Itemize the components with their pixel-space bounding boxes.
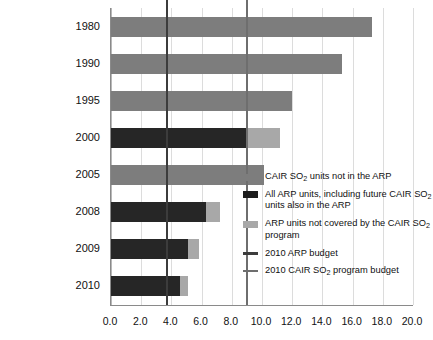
legend-label: All ARP units, including future CAIR SO2… (265, 189, 433, 212)
gridline-6.0 (202, 8, 203, 305)
legend-label: CAIR SO2 units not in the ARP (265, 171, 433, 182)
bar-1980 (111, 17, 372, 37)
y-axis-label-2009: 2009 (0, 243, 108, 254)
bar-2009 (111, 239, 199, 259)
legend-line-swatch (243, 252, 258, 255)
bar-segment (111, 54, 342, 74)
legend-item: 2010 CAIR SO2 program budget (243, 265, 433, 276)
chart-legend: CAIR SO2 units not in the ARPAll ARP uni… (243, 171, 433, 283)
bar-segment (188, 239, 199, 259)
bar-row (111, 128, 413, 148)
legend-label: ARP units not covered by the CAIR SO2 pr… (265, 218, 433, 241)
bar-2010 (111, 276, 188, 296)
bar-segment (180, 276, 188, 296)
bar-2000 (111, 128, 280, 148)
bar-segment (248, 128, 280, 148)
y-axis-label-2008: 2008 (0, 206, 108, 217)
bar-chart: 19801990199520002005200820092010 0.02.04… (0, 0, 433, 340)
legend-item: All ARP units, including future CAIR SO2… (243, 189, 433, 212)
legend-color-swatch (243, 174, 258, 181)
bar-segment (111, 202, 206, 222)
legend-line-swatch (243, 270, 258, 273)
y-axis-label-1995: 1995 (0, 95, 108, 106)
y-axis-label-1980: 1980 (0, 21, 108, 32)
bar-segment (111, 276, 180, 296)
bar-row (111, 91, 413, 111)
bar-segment (111, 165, 264, 185)
reference-line-arp-budget (166, 0, 168, 305)
legend-label: 2010 ARP budget (265, 248, 433, 259)
gridline-8.0 (232, 8, 233, 305)
gridline-4.0 (171, 8, 172, 305)
gridline-2.0 (141, 8, 142, 305)
bar-segment (206, 202, 220, 222)
bar-segment (111, 128, 248, 148)
bar-row (111, 17, 413, 37)
legend-color-swatch (243, 191, 258, 198)
legend-item: 2010 ARP budget (243, 248, 433, 259)
legend-item: ARP units not covered by the CAIR SO2 pr… (243, 218, 433, 241)
x-axis-label-20.0: 20.0 (392, 316, 432, 327)
gridline-0.0 (111, 8, 112, 305)
bar-2005 (111, 165, 264, 185)
y-axis-label-2000: 2000 (0, 132, 108, 143)
bar-1990 (111, 54, 342, 74)
legend-color-swatch (243, 221, 258, 228)
bar-segment (111, 17, 372, 37)
bar-segment (111, 91, 292, 111)
y-axis-label-1990: 1990 (0, 58, 108, 69)
y-axis-label-2010: 2010 (0, 280, 108, 291)
y-axis-label-2005: 2005 (0, 169, 108, 180)
legend-label: 2010 CAIR SO2 program budget (265, 265, 433, 276)
legend-item: CAIR SO2 units not in the ARP (243, 171, 433, 182)
bar-segment (111, 239, 188, 259)
bar-1995 (111, 91, 292, 111)
bar-row (111, 54, 413, 74)
